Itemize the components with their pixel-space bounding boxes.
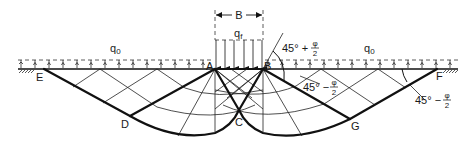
- ground-hatch-right: [443, 70, 458, 73]
- surcharge-left-arrows: [19, 60, 23, 68]
- svg-text:φ: φ: [312, 39, 317, 48]
- point-label-g: G: [351, 120, 360, 132]
- svg-text:2: 2: [313, 49, 318, 58]
- svg-text:φ: φ: [444, 91, 449, 100]
- svg-text:45° +: 45° +: [282, 42, 308, 54]
- svg-text:2: 2: [445, 101, 450, 110]
- footing-load-label: qf: [234, 27, 243, 41]
- angle-arcs: [273, 51, 407, 82]
- footing-load: qf: [215, 27, 263, 68]
- point-label-d: D: [121, 118, 129, 130]
- point-label-c: C: [235, 116, 243, 128]
- footing-load-arrows: [216, 40, 262, 68]
- bearing-capacity-diagram: B qf q0 q0: [0, 0, 474, 146]
- point-label-f: F: [436, 70, 443, 82]
- surcharge-right-label: q0: [364, 42, 375, 56]
- svg-text:2: 2: [332, 88, 337, 97]
- point-label-e: E: [36, 71, 43, 83]
- svg-text:φ: φ: [331, 78, 336, 87]
- ground-hatch-left: [19, 70, 34, 73]
- angle-label-wedge: 45° + φ 2: [282, 39, 319, 58]
- point-label-b: B: [264, 60, 271, 72]
- footing-width-label: B: [235, 9, 242, 21]
- svg-text:45° −: 45° −: [415, 94, 441, 106]
- svg-text:45° −: 45° −: [303, 81, 329, 93]
- surcharge-left: q0: [18, 42, 213, 68]
- angle-label-passive-right: 45° − φ 2: [415, 91, 451, 110]
- point-label-a: A: [206, 60, 214, 72]
- boundary-bg: [263, 69, 350, 119]
- surcharge-left-label: q0: [110, 42, 121, 56]
